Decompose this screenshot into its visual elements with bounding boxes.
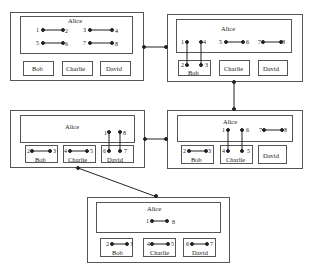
s3-edges [188,129,284,153]
edges-overlay [0,0,311,268]
s1-edges [42,29,114,45]
transition-arrows [77,46,236,198]
s2-edges [186,41,283,67]
s4-edges [31,131,122,153]
s5-edges [111,220,209,246]
